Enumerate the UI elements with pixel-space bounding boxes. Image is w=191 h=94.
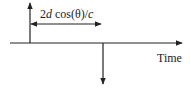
diagram-canvas: [0, 0, 191, 94]
delay-label: 2d cos(θ)/c: [40, 7, 93, 22]
time-axis-label: Time: [157, 51, 182, 66]
